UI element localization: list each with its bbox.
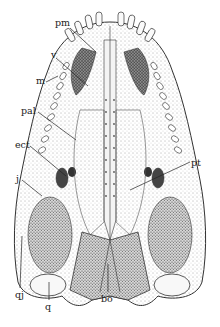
label-pterygoid: pt (191, 158, 201, 168)
label-quadratojugal: qj (15, 290, 24, 300)
label-premaxilla: pm (55, 18, 70, 28)
label-quadrate: q (45, 302, 51, 312)
label-vomer: v (51, 50, 56, 60)
label-basioccipital: bo (101, 294, 113, 304)
label-maxilla: m (36, 76, 45, 86)
label-ectopterygoid: ect (15, 140, 30, 150)
label-palatine: pal (21, 106, 36, 116)
skull-diagram: pm v m pal ect j pt qj q bo (0, 0, 220, 327)
label-jugal: j (16, 174, 19, 184)
skull-illustration (0, 0, 220, 327)
